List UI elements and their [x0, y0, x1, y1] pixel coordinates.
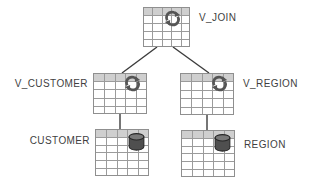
node-label: V_CUSTOMER — [15, 78, 88, 89]
refresh-icon — [211, 75, 228, 92]
node-label: REGION — [244, 139, 286, 150]
node-region[interactable]: REGION — [181, 130, 235, 177]
database-icon — [126, 131, 147, 152]
node-label: V_JOIN — [199, 12, 236, 23]
edge-vjoin-vcustomer — [122, 47, 157, 73]
node-v-region[interactable]: V_REGION — [180, 73, 234, 115]
refresh-icon — [164, 10, 181, 27]
node-label: V_REGION — [243, 78, 298, 89]
database-icon — [212, 132, 233, 153]
node-v-join[interactable]: V_JOIN — [143, 7, 190, 47]
view-hierarchy-diagram: V_JOIN V_CUSTOMER V_REGION CUSTOMER — [0, 0, 311, 188]
node-customer[interactable]: CUSTOMER — [95, 129, 149, 176]
refresh-icon — [124, 75, 141, 92]
edge-vjoin-vregion — [173, 47, 209, 73]
node-label: CUSTOMER — [30, 135, 90, 146]
node-v-customer[interactable]: V_CUSTOMER — [93, 73, 147, 114]
